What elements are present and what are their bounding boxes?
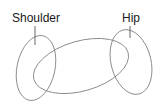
torso-body-ellipse	[27, 28, 135, 103]
shoulder-label: Shoulder	[12, 11, 60, 25]
hip-label: Hip	[122, 11, 140, 25]
torso-sketch-diagram: Shoulder Hip	[0, 0, 157, 103]
